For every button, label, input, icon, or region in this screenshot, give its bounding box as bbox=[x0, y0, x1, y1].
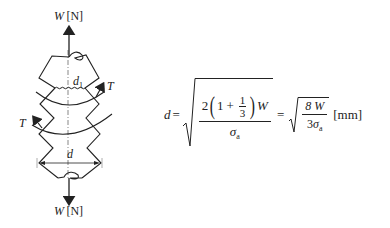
inner-diameter-label: d1 bbox=[73, 74, 83, 90]
torque-label-left: T bbox=[19, 116, 26, 131]
bolt-diagram: W [N] d1 T T d W [N] bbox=[0, 0, 140, 228]
top-load-label: W [N] bbox=[54, 9, 83, 24]
main-fraction: 2 ( 1 + 13 ) W σa bbox=[199, 93, 271, 141]
sqrt-expression: 2 ( 1 + 13 ) W σa bbox=[182, 78, 273, 152]
formula-lhs: d bbox=[164, 107, 171, 123]
sqrt-simplified: 8 W 3σa bbox=[288, 97, 329, 133]
thread-right bbox=[82, 88, 101, 178]
lower-section-end bbox=[58, 172, 82, 179]
upper-section-outline bbox=[39, 52, 99, 88]
torque-arrow-left bbox=[35, 119, 42, 128]
bottom-load-label: W [N] bbox=[54, 204, 83, 219]
thread-left bbox=[39, 88, 58, 178]
torque-arc-lower bbox=[32, 114, 112, 134]
outer-diameter-label: d bbox=[67, 147, 73, 162]
unit-label: [mm] bbox=[333, 107, 362, 123]
bolt-drawing bbox=[0, 0, 140, 228]
diameter-formula: d = 2 ( 1 + 13 ) W σa = bbox=[164, 80, 362, 150]
torque-label-right: T bbox=[107, 79, 114, 94]
